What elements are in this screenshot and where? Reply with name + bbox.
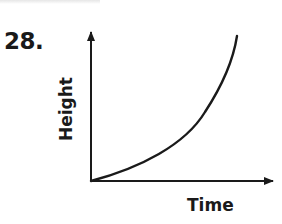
x-axis-label: Time — [187, 195, 234, 215]
y-axis-label: Height — [56, 77, 76, 141]
growth-curve — [91, 36, 237, 181]
graph — [0, 0, 282, 224]
